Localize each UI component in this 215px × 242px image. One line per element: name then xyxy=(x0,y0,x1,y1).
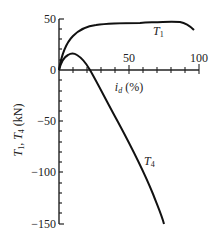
y-axis-label: T1, T4 (kN) xyxy=(11,103,26,156)
series-t1-label: T1 xyxy=(153,24,164,39)
x-tick-100: 100 xyxy=(190,51,208,65)
y-tick-minus-100: −100 xyxy=(31,165,56,179)
chart: 50 0 −50 −100 −150 50 100 id(%) T1, T4 (… xyxy=(0,0,215,242)
y-tick-minus-50: −50 xyxy=(37,114,56,128)
x-axis-label: id(%) xyxy=(115,80,143,95)
y-tick-0: 0 xyxy=(50,63,56,77)
y-tick-50: 50 xyxy=(44,12,56,26)
x-tick-50: 50 xyxy=(123,51,135,65)
y-ticks xyxy=(59,19,64,224)
series-t4-label: T4 xyxy=(144,154,155,169)
series-t4-line xyxy=(59,54,164,225)
y-tick-minus-150: −150 xyxy=(31,217,56,231)
